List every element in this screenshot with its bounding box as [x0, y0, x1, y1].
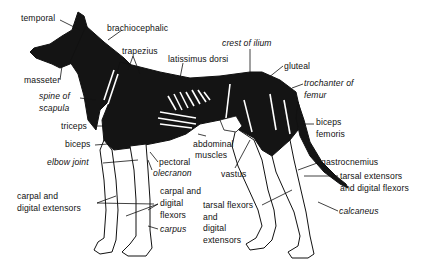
label-tarsal-extensors-line1: tarsal extensors [340, 171, 402, 182]
label-trapezius: trapezius [122, 46, 158, 57]
label-latissimus-dorsi: latissimus dorsi [168, 54, 228, 65]
label-temporal: temporal [21, 13, 55, 24]
label-tarsal-flexors-line2: and [203, 212, 218, 223]
label-carpal-digital-extensors-line2: digital extensors [17, 203, 81, 214]
label-triceps: triceps [61, 121, 87, 132]
label-vastus: vastus [221, 169, 246, 180]
label-carpal-digital-flexors-line1: carpal and [160, 186, 201, 197]
label-masseter: masseter [24, 75, 60, 86]
label-tarsal-flexors-line1: tarsal flexors [203, 200, 253, 211]
label-carpus: carpus [160, 224, 186, 235]
label-olecranon: olecranon [153, 168, 192, 179]
label-gastrocnemius: gastrocnemius [321, 157, 378, 168]
label-trochanter-of-femur-line2: femur [304, 90, 326, 101]
label-abdominal-muscles-line2: muscles [195, 150, 227, 161]
label-abdominal-muscles-line1: abdominal [193, 139, 234, 150]
label-tarsal-flexors-line3: digital [203, 223, 226, 234]
label-carpal-digital-flexors-line2: digital [160, 198, 183, 209]
label-carpal-digital-flexors-line3: flexors [160, 210, 186, 221]
label-tarsal-flexors-line4: extensors [203, 235, 241, 246]
dog-muscle-diagram: temporal brachiocephalic trapezius latis… [0, 0, 436, 271]
label-tarsal-extensors-line2: and digital flexors [340, 183, 409, 194]
label-pectoral: pectoral [159, 157, 190, 168]
label-crest-of-ilium: crest of ilium [222, 38, 272, 49]
label-calcaneus: calcaneus [339, 206, 379, 217]
label-biceps-femoris-line2: femoris [316, 129, 345, 140]
forelegs [94, 140, 152, 256]
label-elbow-joint: elbow joint [47, 157, 89, 168]
label-biceps-femoris-line1: biceps [316, 117, 341, 128]
label-carpal-digital-extensors-line1: carpal and [17, 191, 58, 202]
label-spine-of-scapula-line1: spine of [39, 91, 70, 102]
label-trochanter-of-femur-line1: trochanter of [304, 78, 354, 89]
label-spine-of-scapula-line2: scapula [39, 103, 69, 114]
label-gluteal: gluteal [284, 61, 310, 72]
label-brachiocephalic: brachiocephalic [107, 23, 168, 34]
label-biceps: biceps [65, 139, 90, 150]
